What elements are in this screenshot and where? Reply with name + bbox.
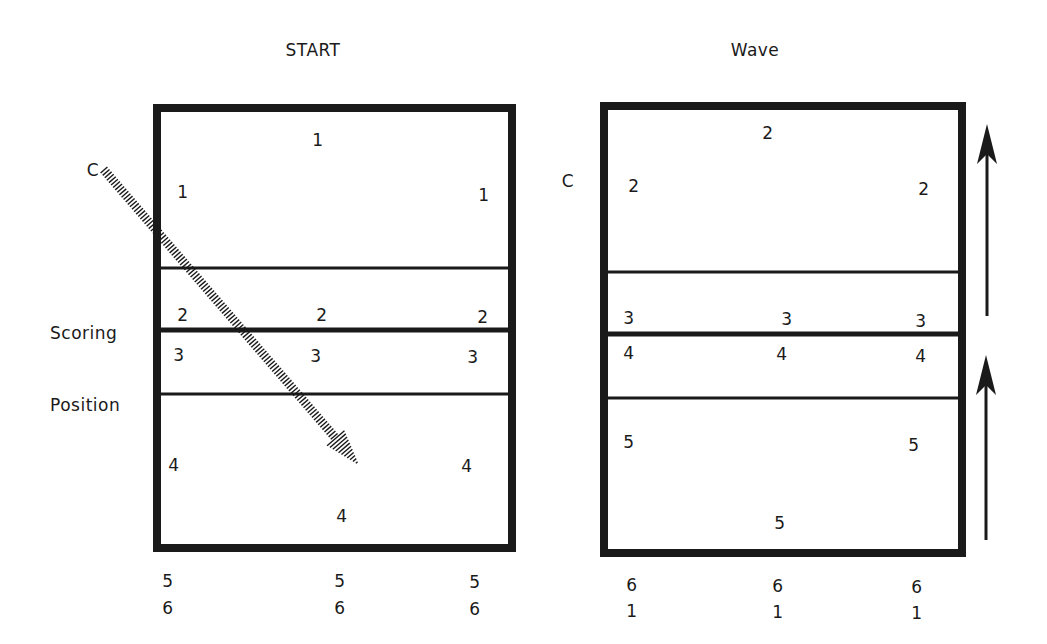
player-position-number: 5 (623, 434, 634, 451)
player-position-number: 1 (312, 132, 323, 149)
player-position-number: 4 (336, 508, 347, 525)
start-setter-marker: C (87, 162, 99, 179)
scoring-label-line-1: Scoring (50, 321, 120, 345)
player-position-number: 6 (162, 600, 173, 617)
player-position-number: 6 (911, 579, 922, 596)
player-position-number: 1 (177, 184, 188, 201)
player-position-number: 1 (911, 605, 922, 622)
player-position-number: 2 (918, 181, 929, 198)
rotation-diagram (0, 0, 1047, 644)
player-position-number: 3 (310, 348, 321, 365)
player-position-number: 5 (162, 573, 173, 590)
player-position-number: 6 (469, 601, 480, 618)
scoring-position-label: Scoring Position (50, 273, 120, 465)
up-arrow-icon (976, 355, 996, 540)
player-position-number: 1 (772, 604, 783, 621)
player-position-number: 3 (915, 313, 926, 330)
start-court (157, 108, 512, 548)
wave-setter-marker: C (562, 173, 574, 190)
player-position-number: 4 (915, 348, 926, 365)
wave-panel-title: Wave (731, 42, 780, 59)
player-position-number: 2 (762, 125, 773, 142)
player-position-number: 5 (908, 437, 919, 454)
player-position-number: 6 (772, 578, 783, 595)
player-position-number: 5 (334, 573, 345, 590)
player-position-number: 4 (168, 457, 179, 474)
player-position-number: 2 (177, 307, 188, 324)
player-position-number: 5 (774, 515, 785, 532)
wave-court (604, 106, 962, 553)
player-position-number: 2 (316, 307, 327, 324)
player-position-number: 6 (334, 600, 345, 617)
scoring-label-line-2: Position (50, 393, 120, 417)
up-arrow-icon (977, 124, 997, 316)
player-position-number: 2 (628, 178, 639, 195)
player-position-number: 3 (781, 311, 792, 328)
player-position-number: 4 (776, 346, 787, 363)
rotation-direction-arrows (976, 124, 997, 540)
player-position-number: 1 (478, 187, 489, 204)
player-position-number: 3 (623, 310, 634, 327)
player-position-number: 4 (623, 345, 634, 362)
player-position-number: 3 (467, 349, 478, 366)
player-position-number: 5 (469, 574, 480, 591)
player-position-number: 2 (477, 309, 488, 326)
start-panel-title: START (286, 42, 341, 59)
player-position-number: 4 (461, 458, 472, 475)
player-position-number: 3 (173, 347, 184, 364)
player-position-number: 1 (626, 603, 637, 620)
player-position-number: 6 (626, 577, 637, 594)
